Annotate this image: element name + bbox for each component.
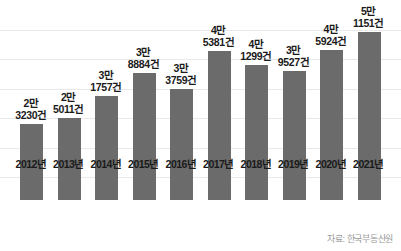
bar-value-unit: 2만 (53, 92, 84, 104)
x-axis-label: 2019년 (278, 156, 309, 171)
bar-value-number: 9527건 (278, 57, 309, 69)
x-axis-label: 2012년 (16, 156, 47, 171)
bar[interactable] (320, 50, 343, 200)
x-axis-label: 2018년 (241, 156, 272, 171)
bar-value-label: 3만1757건 (90, 70, 121, 93)
bar-value-label: 3만8884건 (128, 47, 159, 70)
x-axis-label: 2016년 (166, 156, 197, 171)
bar[interactable] (133, 73, 156, 200)
x-axis-label: 2013년 (53, 156, 84, 171)
bar[interactable] (358, 32, 381, 200)
bar-value-unit: 3만 (278, 45, 309, 57)
bar[interactable] (245, 65, 268, 200)
source-note: 자료: 한국부동산원 (327, 232, 393, 245)
bar-value-number: 8884건 (128, 59, 159, 71)
x-axis-label: 2020년 (316, 156, 347, 171)
bar-value-unit: 5만 (353, 6, 384, 18)
bar-value-unit: 3만 (128, 47, 159, 59)
bar-value-label: 4만1299건 (240, 39, 271, 62)
bar-value-number: 1151건 (353, 18, 384, 30)
bar[interactable] (170, 89, 193, 200)
x-axis-label: 2017년 (203, 156, 234, 171)
bar-value-unit: 4만 (315, 24, 346, 36)
bar-value-label: 2만3230건 (15, 98, 46, 121)
bar-value-label: 4만5381건 (203, 25, 234, 48)
bar-value-unit: 4만 (240, 39, 271, 51)
bar-value-number: 1299건 (240, 51, 271, 63)
bar-value-label: 2만5011건 (53, 92, 84, 115)
bar-value-unit: 4만 (203, 25, 234, 37)
bar-value-label: 4만5924건 (315, 24, 346, 47)
bar-value-unit: 2만 (15, 98, 46, 110)
bar-value-unit: 3만 (90, 70, 121, 82)
bar-value-number: 5381건 (203, 37, 234, 49)
bar-value-number: 3759건 (165, 75, 196, 87)
bar[interactable] (95, 96, 118, 200)
bar-value-number: 5011건 (53, 104, 84, 116)
bar-value-label: 5만1151건 (353, 6, 384, 29)
bar-value-unit: 3만 (165, 63, 196, 75)
bar-value-number: 1757건 (90, 82, 121, 94)
bar-value-number: 3230건 (15, 110, 46, 122)
bar-value-number: 5924건 (315, 36, 346, 48)
x-axis-label: 2014년 (91, 156, 122, 171)
bar-value-label: 3만3759건 (165, 63, 196, 86)
plot-area: 2만3230건2012년2만5011건2013년3만1757건2014년3만88… (0, 0, 401, 251)
x-axis-label: 2015년 (128, 156, 159, 171)
bar-chart: 2만3230건2012년2만5011건2013년3만1757건2014년3만88… (0, 0, 401, 251)
x-axis-label: 2021년 (353, 156, 384, 171)
bar[interactable] (208, 51, 231, 200)
bar[interactable] (283, 71, 306, 200)
bar-value-label: 3만9527건 (278, 45, 309, 68)
